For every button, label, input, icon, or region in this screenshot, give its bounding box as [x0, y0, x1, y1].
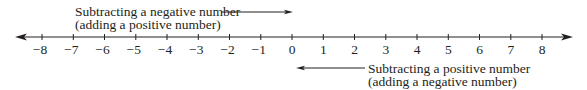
- tick-label: −1: [247, 43, 271, 57]
- tick-label: 0: [280, 43, 304, 57]
- tick-label: −3: [184, 43, 208, 57]
- tick-label: 1: [311, 43, 335, 57]
- tick-label: 7: [499, 43, 523, 57]
- tick-label: 3: [374, 43, 398, 57]
- tick-label: 5: [436, 43, 460, 57]
- tick-label: 2: [343, 43, 367, 57]
- tick-label: −2: [216, 43, 240, 57]
- tick-label: −6: [91, 43, 115, 57]
- tick-label: −4: [153, 43, 177, 57]
- tick-label: 4: [405, 43, 429, 57]
- tick-label: 6: [468, 43, 492, 57]
- tick-label: −8: [28, 43, 52, 57]
- tick-label: 8: [530, 43, 554, 57]
- tick-label: −7: [59, 43, 83, 57]
- bottom-annotation-line2: (adding a negative number): [368, 75, 517, 88]
- tick-label: −5: [122, 43, 146, 57]
- top-annotation-line2: (adding a positive number): [75, 18, 221, 31]
